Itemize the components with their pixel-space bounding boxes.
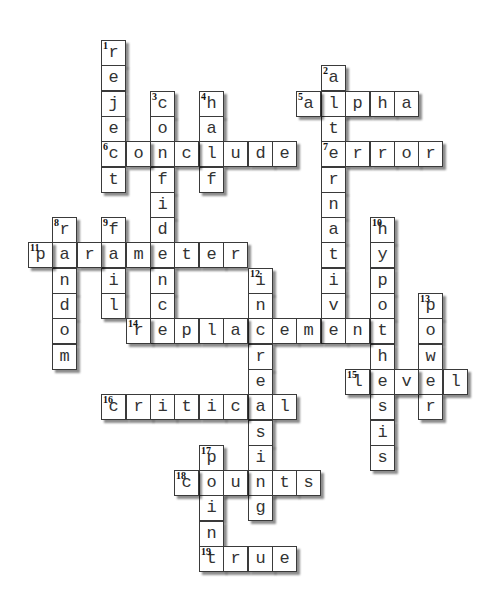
crossword-cell[interactable]: i (248, 445, 273, 471)
crossword-cell[interactable]: j (101, 91, 126, 117)
crossword-cell[interactable]: r (248, 344, 273, 370)
crossword-cell[interactable]: p (370, 268, 395, 294)
crossword-cell[interactable]: c (150, 293, 175, 319)
crossword-cell[interactable]: t (101, 167, 126, 193)
crossword-cell[interactable]: e (272, 141, 297, 167)
crossword-cell[interactable]: t (174, 394, 199, 420)
crossword-cell[interactable]: s (296, 470, 321, 496)
crossword-cell[interactable]: s (248, 420, 273, 446)
crossword-cell[interactable]: n (150, 268, 175, 294)
crossword-cell[interactable]: r (321, 167, 346, 193)
crossword-cell[interactable]: r (223, 546, 248, 572)
crossword-cell[interactable]: o (418, 318, 443, 344)
crossword-cell[interactable]: e (101, 116, 126, 142)
crossword-cell[interactable]: h (370, 344, 395, 370)
crossword-cell[interactable]: u (248, 546, 273, 572)
crossword-cell[interactable]: i (370, 420, 395, 446)
crossword-cell[interactable]: e (101, 65, 126, 91)
crossword-cell[interactable]: f (199, 167, 224, 193)
crossword-cell[interactable]: c16 (101, 394, 126, 420)
crossword-cell[interactable]: w (418, 344, 443, 370)
crossword-cell[interactable]: p17 (199, 445, 224, 471)
crossword-cell[interactable]: e7 (321, 141, 346, 167)
crossword-cell[interactable]: c18 (174, 470, 199, 496)
crossword-cell[interactable]: o (394, 141, 419, 167)
crossword-cell[interactable]: e (150, 242, 175, 268)
crossword-cell[interactable]: d (248, 141, 273, 167)
crossword-cell[interactable]: a (52, 242, 77, 268)
crossword-cell[interactable]: o (52, 318, 77, 344)
crossword-cell[interactable]: n (199, 521, 224, 547)
crossword-cell[interactable]: c3 (150, 91, 175, 117)
crossword-cell[interactable]: a (199, 116, 224, 142)
crossword-cell[interactable]: e (321, 318, 346, 344)
crossword-cell[interactable]: n (345, 318, 370, 344)
crossword-cell[interactable]: n (248, 470, 273, 496)
crossword-cell[interactable]: o (150, 116, 175, 142)
crossword-cell[interactable]: i (199, 495, 224, 521)
crossword-cell[interactable]: c (223, 394, 248, 420)
crossword-cell[interactable]: s (370, 445, 395, 471)
crossword-cell[interactable]: l (321, 91, 346, 117)
crossword-cell[interactable]: l (101, 293, 126, 319)
crossword-cell[interactable]: m (126, 242, 151, 268)
crossword-cell[interactable]: l (443, 369, 468, 395)
crossword-cell[interactable]: e (418, 369, 443, 395)
crossword-cell[interactable]: f (150, 167, 175, 193)
crossword-cell[interactable]: a (223, 318, 248, 344)
crossword-cell[interactable]: o (199, 470, 224, 496)
crossword-cell[interactable]: m (296, 318, 321, 344)
crossword-cell[interactable]: e (199, 242, 224, 268)
crossword-cell[interactable]: a2 (321, 65, 346, 91)
crossword-cell[interactable]: t (370, 318, 395, 344)
crossword-cell[interactable]: m (52, 344, 77, 370)
crossword-cell[interactable]: u (223, 141, 248, 167)
crossword-cell[interactable]: p11 (28, 242, 53, 268)
crossword-cell[interactable]: n (248, 293, 273, 319)
crossword-cell[interactable]: l15 (345, 369, 370, 395)
crossword-cell[interactable]: e (248, 369, 273, 395)
crossword-cell[interactable]: n (52, 268, 77, 294)
crossword-cell[interactable]: t (321, 242, 346, 268)
crossword-cell[interactable]: a5 (296, 91, 321, 117)
crossword-cell[interactable]: l (272, 394, 297, 420)
crossword-cell[interactable]: t (321, 116, 346, 142)
crossword-cell[interactable]: h4 (199, 91, 224, 117)
crossword-cell[interactable]: p (174, 318, 199, 344)
crossword-cell[interactable]: r (418, 141, 443, 167)
crossword-cell[interactable]: v (394, 369, 419, 395)
crossword-cell[interactable]: r (345, 141, 370, 167)
crossword-cell[interactable]: h10 (370, 217, 395, 243)
crossword-cell[interactable]: a (101, 242, 126, 268)
crossword-cell[interactable]: t19 (199, 546, 224, 572)
crossword-cell[interactable]: l (199, 318, 224, 344)
crossword-cell[interactable]: r (370, 141, 395, 167)
crossword-cell[interactable]: i (150, 394, 175, 420)
crossword-cell[interactable]: v (321, 293, 346, 319)
crossword-cell[interactable]: n (321, 192, 346, 218)
crossword-cell[interactable]: c6 (101, 141, 126, 167)
crossword-cell[interactable]: r1 (101, 40, 126, 66)
crossword-cell[interactable]: t (272, 470, 297, 496)
crossword-cell[interactable]: g (248, 495, 273, 521)
crossword-cell[interactable]: i (321, 268, 346, 294)
crossword-cell[interactable]: r14 (126, 318, 151, 344)
crossword-cell[interactable]: i (101, 268, 126, 294)
crossword-cell[interactable]: r (77, 242, 102, 268)
crossword-cell[interactable]: a (248, 394, 273, 420)
crossword-cell[interactable]: r (418, 394, 443, 420)
crossword-cell[interactable]: d (150, 217, 175, 243)
crossword-cell[interactable]: i12 (248, 268, 273, 294)
crossword-cell[interactable]: a (321, 217, 346, 243)
crossword-cell[interactable]: c (174, 141, 199, 167)
crossword-cell[interactable]: h (370, 91, 395, 117)
crossword-cell[interactable]: d (52, 293, 77, 319)
crossword-cell[interactable]: e (150, 318, 175, 344)
crossword-cell[interactable]: f9 (101, 217, 126, 243)
crossword-cell[interactable]: u (223, 470, 248, 496)
crossword-cell[interactable]: o (126, 141, 151, 167)
crossword-cell[interactable]: s (370, 394, 395, 420)
crossword-cell[interactable]: e (370, 369, 395, 395)
crossword-cell[interactable]: r (126, 394, 151, 420)
crossword-cell[interactable]: l (199, 141, 224, 167)
